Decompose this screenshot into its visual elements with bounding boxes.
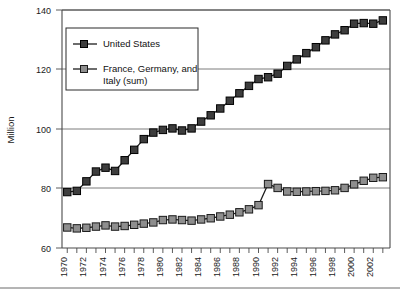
data-point: [111, 223, 118, 230]
x-tick-label: 1988: [231, 257, 241, 277]
data-point: [140, 135, 147, 142]
data-point: [178, 127, 185, 134]
data-point: [255, 201, 262, 208]
data-point: [264, 180, 271, 187]
x-tick-label: 1986: [212, 257, 222, 277]
data-point: [131, 221, 138, 228]
data-point: [64, 188, 71, 195]
data-point: [255, 75, 262, 82]
legend-label-europe-line2: Italy (sum): [103, 75, 147, 86]
chart-container: Million 140 120 100 80 60: [0, 0, 400, 297]
data-point: [217, 213, 224, 220]
line-chart: Million 140 120 100 80 60: [0, 0, 400, 297]
x-tick-label: 1998: [327, 257, 337, 277]
data-point: [92, 223, 99, 230]
data-point: [331, 187, 338, 194]
data-point: [322, 187, 329, 194]
data-point: [207, 215, 214, 222]
x-axis-tick-labels: 1970197219741976197819801982198419861988…: [59, 257, 375, 277]
data-point: [197, 216, 204, 223]
data-point: [379, 174, 386, 181]
data-point: [188, 217, 195, 224]
data-point: [284, 188, 291, 195]
x-tick-label: 1990: [251, 257, 261, 277]
x-tick-label: 1980: [155, 257, 165, 277]
y-tick-label: 80: [41, 184, 51, 194]
data-point: [64, 224, 71, 231]
data-point: [102, 222, 109, 229]
x-tick-label: 1976: [117, 257, 127, 277]
data-point: [197, 118, 204, 125]
data-point: [293, 188, 300, 195]
legend-marker-eu: [81, 66, 88, 73]
y-tick-label: 100: [36, 125, 51, 135]
x-tick-label: 1970: [59, 257, 69, 277]
data-point: [264, 74, 271, 81]
data-point: [379, 17, 386, 24]
x-tick-label: 1996: [308, 257, 318, 277]
data-point: [370, 20, 377, 27]
y-tick-label: 140: [36, 6, 51, 16]
legend-label-europe-line1: France, Germany, and: [103, 63, 197, 74]
data-point: [169, 125, 176, 132]
data-point: [350, 20, 357, 27]
x-tick-label: 2000: [346, 257, 356, 277]
data-point: [322, 37, 329, 44]
y-tick-label: 60: [41, 244, 51, 254]
data-point: [83, 224, 90, 231]
data-point: [131, 146, 138, 153]
data-point: [303, 49, 310, 56]
data-point: [303, 188, 310, 195]
y-axis-title: Million: [5, 117, 16, 144]
data-point: [370, 174, 377, 181]
data-point: [293, 56, 300, 63]
data-point: [284, 62, 291, 69]
data-point: [83, 178, 90, 185]
data-point: [341, 184, 348, 191]
data-point: [226, 97, 233, 104]
data-point: [121, 157, 128, 164]
x-tick-label: 1974: [98, 257, 108, 277]
data-point: [245, 82, 252, 89]
data-point: [207, 112, 214, 119]
data-point: [159, 216, 166, 223]
data-point: [245, 206, 252, 213]
data-point: [73, 187, 80, 194]
data-point: [350, 181, 357, 188]
x-tick-label: 2002: [365, 257, 375, 277]
data-point: [360, 19, 367, 26]
x-tick-label: 1972: [78, 257, 88, 277]
data-point: [274, 70, 281, 77]
data-point: [341, 27, 348, 34]
data-point: [169, 216, 176, 223]
data-point: [226, 211, 233, 218]
data-point: [188, 125, 195, 132]
data-point: [73, 225, 80, 232]
x-tick-label: 1994: [289, 257, 299, 277]
legend-marker-us: [81, 41, 88, 48]
data-point: [236, 209, 243, 216]
data-point: [312, 43, 319, 50]
x-tick-label: 1982: [174, 257, 184, 277]
data-point: [236, 90, 243, 97]
data-point: [111, 167, 118, 174]
data-point: [274, 184, 281, 191]
x-tick-label: 1984: [193, 257, 203, 277]
data-point: [331, 31, 338, 38]
data-point: [121, 222, 128, 229]
legend: United States France, Germany, and Italy…: [66, 28, 198, 90]
data-point: [102, 164, 109, 171]
data-point: [92, 168, 99, 175]
data-point: [217, 105, 224, 112]
x-tick-label: 1978: [136, 257, 146, 277]
data-point: [150, 219, 157, 226]
legend-label-united-states: United States: [103, 38, 160, 49]
data-point: [360, 177, 367, 184]
data-point: [140, 220, 147, 227]
data-point: [178, 216, 185, 223]
data-point: [150, 129, 157, 136]
x-tick-label: 1992: [270, 257, 280, 277]
chart-background: [0, 0, 400, 297]
data-point: [312, 187, 319, 194]
data-point: [159, 126, 166, 133]
